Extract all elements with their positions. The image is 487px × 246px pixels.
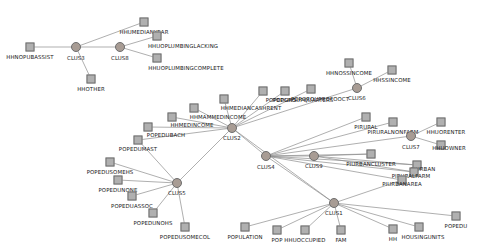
variable-node-hhmedincome[interactable]	[168, 113, 177, 122]
variable-node-hhuoccupied[interactable]	[301, 226, 310, 235]
node-label-piurbancluster: PIURBANCLUSTER	[346, 162, 396, 167]
node-label-piurbanarea: PIURBANAREA	[382, 182, 422, 187]
variable-node-popgroupquarters[interactable]	[281, 87, 290, 96]
network-graph-canvas: HHUMEDIANYEARHHNOPUBASSISTCLUS3CLUS8HHUO…	[0, 0, 487, 246]
variable-node-popedusomecol[interactable]	[181, 223, 190, 232]
node-label-popedumast: POPEDUMAST	[119, 147, 157, 152]
variable-node-popedu[interactable]	[452, 212, 461, 221]
graph-edge	[334, 203, 456, 216]
variable-node-pop[interactable]	[273, 226, 282, 235]
node-label-popeduassoc: POPEDUASSOC	[111, 204, 153, 209]
node-label-hhuowner: HHUOWNER	[432, 146, 466, 151]
node-label-clus1: CLUS1	[325, 211, 343, 216]
variable-node-hhother[interactable]	[87, 75, 96, 84]
cluster-node-clus6[interactable]	[352, 83, 362, 93]
node-label-clus5: CLUS5	[168, 191, 186, 196]
graph-edge	[232, 128, 266, 156]
node-label-housingunits: HOUSINGUNITS	[402, 235, 445, 240]
node-label-hhuoplumbinglacking: HHUOPLUMBINGLACKING	[148, 44, 218, 49]
node-label-popedubach: POPEDUBACH	[147, 133, 185, 138]
node-label-hhmammedincome: HHMAMMEDINCOME	[190, 115, 246, 120]
cluster-node-clus2[interactable]	[227, 123, 237, 133]
cluster-node-clus3[interactable]	[71, 42, 81, 52]
variable-node-hh[interactable]	[389, 225, 398, 234]
node-label-hh: HH	[389, 237, 397, 242]
cluster-node-clus8[interactable]	[115, 42, 125, 52]
variable-node-popedunohs[interactable]	[149, 209, 158, 218]
variable-node-pirural[interactable]	[362, 113, 371, 122]
node-label-fam: FAM	[335, 238, 346, 243]
variable-node-popedunone[interactable]	[114, 176, 123, 185]
variable-node-housingunits[interactable]	[415, 223, 424, 232]
variable-node-popedumast[interactable]	[134, 136, 143, 145]
cluster-node-clus9[interactable]	[309, 151, 319, 161]
node-label-hhuoplumbingcomplete: HHUOPLUMBINGCOMPLETE	[148, 66, 223, 71]
node-label-clus2: CLUS2	[223, 136, 241, 141]
node-label-hhuoccupied: HHUOCCUPIED	[284, 238, 325, 243]
graph-edge	[266, 117, 366, 156]
node-label-hhssincome: HHSSINCOME	[373, 78, 411, 83]
node-label-hhuorenter: HHUORENTER	[427, 130, 466, 135]
variable-node-popedusomehs[interactable]	[106, 158, 115, 167]
node-label-popedusomecol: POPEDUSOMECOL	[160, 235, 210, 240]
node-label-hhmediancashrent: HHMEDIANCASHRENT	[221, 106, 282, 111]
graph-edge	[266, 156, 334, 203]
node-label-hhnopubassist: HHNOPUBASSIST	[6, 55, 53, 60]
cluster-node-clus4[interactable]	[261, 151, 271, 161]
node-label-popedusomehs: POPEDUSOMEHS	[87, 170, 134, 175]
cluster-node-clus5[interactable]	[172, 178, 182, 188]
variable-node-population[interactable]	[241, 223, 250, 232]
variable-node-hhuorenter[interactable]	[437, 118, 446, 127]
variable-node-hhuoplumbingcomplete[interactable]	[153, 54, 162, 63]
node-label-clus7: CLUS7	[402, 145, 420, 150]
variable-node-hhssincome[interactable]	[388, 66, 397, 75]
cluster-node-clus1[interactable]	[329, 198, 339, 208]
node-label-hhmedincome: HHMEDINCOME	[170, 123, 213, 128]
variable-node-hhuoplumbinglacking[interactable]	[153, 32, 162, 41]
graph-edge	[266, 136, 411, 156]
cluster-node-clus7[interactable]	[406, 131, 416, 141]
node-label-popgrouprofooct: POPGROUPROFOOCT	[291, 97, 349, 102]
node-label-hhother: HHOTHER	[77, 87, 105, 92]
node-label-hhnossincome: HHNOSSINCOME	[326, 71, 372, 76]
variable-node-hhmammedincome[interactable]	[190, 104, 199, 113]
variable-node-piruralnonfarm[interactable]	[389, 118, 398, 127]
node-label-popedunohs: POPEDUNOHS	[134, 221, 173, 226]
variable-node-popeduhs[interactable]	[259, 87, 268, 96]
node-label-pop: POP	[271, 238, 282, 243]
graph-edge	[334, 203, 419, 227]
node-label-popedu: POPEDU	[445, 224, 468, 229]
node-label-clus6: CLUS6	[348, 96, 366, 101]
node-label-clus8: CLUS8	[111, 56, 129, 61]
variable-node-fam[interactable]	[337, 226, 346, 235]
variable-node-hhmediancashrent[interactable]	[220, 95, 229, 104]
variable-node-popedubach[interactable]	[144, 123, 153, 132]
variable-node-hhnopubassist[interactable]	[26, 43, 35, 52]
edge-layer	[0, 0, 487, 246]
node-label-population: POPULATION	[227, 235, 262, 240]
variable-node-piurbancluster[interactable]	[367, 150, 376, 159]
node-label-clus3: CLUS3	[67, 56, 85, 61]
node-label-clus9: CLUS9	[305, 164, 323, 169]
variable-node-popeduassoc[interactable]	[128, 192, 137, 201]
variable-node-popgrouprofooct[interactable]	[307, 85, 316, 94]
variable-node-hhnossincome[interactable]	[345, 59, 354, 68]
node-label-clus4: CLUS4	[257, 165, 275, 170]
variable-node-hhumedianyear[interactable]	[140, 18, 149, 27]
